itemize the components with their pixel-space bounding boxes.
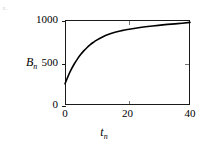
data-curve-bn	[65, 22, 190, 83]
figure-container: r. Bn tn 1000 500 0 0 20 40	[0, 0, 208, 152]
plot-svg	[0, 0, 208, 152]
